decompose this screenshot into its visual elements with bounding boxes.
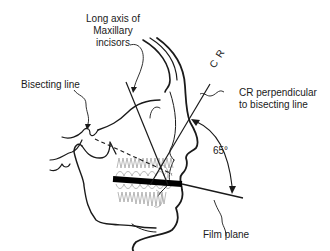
angle-arrowhead-bottom: [229, 186, 236, 194]
forehead-skin: [133, 38, 198, 251]
film-plane-label: Film plane: [203, 229, 249, 241]
central-ray-line: [150, 84, 210, 185]
mandible-ramus: [74, 144, 156, 228]
skull-base: [62, 128, 98, 138]
mastoid-outline: [50, 164, 70, 171]
bisecting-angle-diagram: Long axis of Maxillary incisors Bisectin…: [0, 0, 330, 251]
coronoid-notch: [82, 142, 116, 158]
leader-bisecting: [74, 90, 89, 124]
long-axis-label-line2: Maxillary: [78, 25, 148, 37]
occipital-outline: [50, 140, 82, 160]
leader-long-axis-arrow: [131, 87, 137, 93]
bisecting-line-label: Bisecting line: [21, 79, 80, 91]
long-axis-label: Long axis of Maxillary incisors: [78, 13, 148, 49]
film-bar: [113, 179, 182, 184]
long-axis-label-line1: Long axis of: [78, 13, 148, 25]
cr-perpendicular-label-line1: CR perpendicular: [239, 87, 317, 99]
skull-profile-drawing: [0, 0, 330, 251]
facial-bone-inner: [150, 107, 160, 118]
angle-label: 65°: [213, 145, 228, 157]
bisecting-line: [95, 139, 172, 174]
leader-long-axis: [130, 44, 143, 88]
long-axis-line: [126, 82, 168, 185]
long-axis-label-line3: incisors: [78, 37, 148, 49]
cr-perpendicular-label-line2: to bisecting line: [239, 99, 317, 111]
cr-perpendicular-label: CR perpendicular to bisecting line: [239, 87, 317, 111]
